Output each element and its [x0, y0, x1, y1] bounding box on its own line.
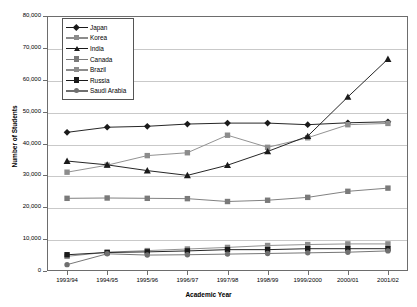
y-axis-title: Number of Students — [11, 92, 18, 182]
legend-item-india[interactable]: India — [66, 43, 130, 54]
x-tick-mark — [107, 271, 108, 275]
data-point — [345, 241, 350, 246]
legend-item-canada[interactable]: Canada — [66, 54, 130, 65]
data-point — [305, 250, 310, 255]
data-point — [264, 120, 271, 127]
data-point — [64, 169, 69, 174]
data-point — [144, 123, 151, 130]
legend-item-russia[interactable]: Russia — [66, 75, 130, 86]
x-tick-mark — [268, 271, 269, 275]
legend-item-saudi-arabia[interactable]: Saudi Arabia — [66, 86, 130, 97]
x-tick-mark — [388, 271, 389, 275]
data-point — [225, 199, 230, 204]
data-point — [185, 252, 190, 257]
x-tick-mark — [187, 271, 188, 275]
data-point — [185, 150, 190, 155]
data-point — [145, 196, 150, 201]
legend-label: Brazil — [90, 65, 106, 74]
legend-label: Russia — [90, 76, 110, 85]
legend-swatch-icon — [66, 33, 88, 42]
data-point — [64, 262, 69, 267]
x-tick-mark — [348, 271, 349, 275]
data-point — [224, 162, 231, 168]
data-point — [385, 241, 390, 246]
x-tick-mark — [228, 271, 229, 275]
x-tick-mark — [308, 271, 309, 275]
data-point — [64, 196, 69, 201]
legend-label: Korea — [90, 33, 107, 42]
data-point — [64, 252, 69, 257]
x-tick-label: 2000/01 — [337, 277, 359, 283]
x-tick-label: 1994/95 — [96, 277, 118, 283]
series-canada — [64, 185, 390, 204]
x-tick-mark — [67, 271, 68, 275]
legend-swatch-icon — [66, 65, 88, 74]
data-point — [265, 198, 270, 203]
data-point — [64, 158, 71, 164]
data-point — [345, 122, 350, 127]
data-point — [384, 56, 391, 62]
data-point — [64, 129, 71, 136]
data-point — [265, 251, 270, 256]
legend-label: India — [90, 44, 104, 53]
x-axis-title: Academic Year — [0, 291, 417, 298]
x-tick-mark — [147, 271, 148, 275]
data-point — [224, 120, 231, 127]
legend-swatch-icon — [66, 76, 88, 85]
legend-label: Canada — [90, 55, 112, 64]
data-point — [145, 153, 150, 158]
line-chart: 010,00020,00030,00040,00050,00060,00070,… — [0, 0, 417, 307]
data-point — [184, 121, 191, 128]
data-point — [385, 185, 390, 190]
x-tick-label: 1998/99 — [257, 277, 279, 283]
legend-item-brazil[interactable]: Brazil — [66, 64, 130, 75]
data-point — [385, 121, 390, 126]
data-point — [305, 195, 310, 200]
legend-item-korea[interactable]: Korea — [66, 33, 130, 44]
legend-swatch-icon — [66, 23, 88, 32]
data-point — [104, 251, 109, 256]
data-point — [345, 249, 350, 254]
data-point — [104, 124, 111, 131]
x-tick-label: 1999/2000 — [294, 277, 322, 283]
legend-item-japan[interactable]: Japan — [66, 22, 130, 33]
data-point — [225, 133, 230, 138]
data-point — [225, 251, 230, 256]
legend-label: Saudi Arabia — [90, 86, 126, 95]
data-point — [185, 196, 190, 201]
data-point — [385, 248, 390, 253]
legend-swatch-icon — [66, 44, 88, 53]
x-tick-label: 1997/98 — [217, 277, 239, 283]
x-tick-label: 2001/02 — [377, 277, 399, 283]
x-tick-label: 1996/97 — [177, 277, 199, 283]
legend-label: Japan — [90, 23, 107, 32]
legend-swatch-icon — [66, 86, 88, 95]
data-point — [345, 189, 350, 194]
data-point — [145, 252, 150, 257]
data-point — [304, 121, 311, 128]
x-tick-label: 1995/96 — [136, 277, 158, 283]
legend: JapanKoreaIndiaCanadaBrazilRussiaSaudi A… — [62, 18, 134, 100]
x-tick-label: 1993/94 — [56, 277, 78, 283]
legend-swatch-icon — [66, 55, 88, 64]
data-point — [104, 195, 109, 200]
